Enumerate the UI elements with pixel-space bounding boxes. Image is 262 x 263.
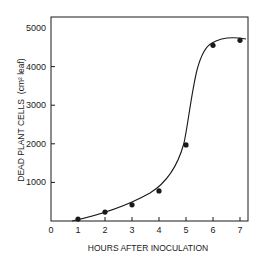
y-tick-label: 1000 — [26, 177, 46, 187]
x-axis-title: HOURS AFTER INOCULATION — [88, 243, 208, 253]
y-axis-title: DEAD PLANT CELLS(cm² leaf) — [16, 58, 26, 182]
x-tick-label: 7 — [237, 225, 242, 235]
data-point — [129, 202, 134, 207]
data-point — [183, 142, 188, 147]
y-tick-label: 3000 — [26, 100, 46, 110]
data-point — [75, 216, 80, 221]
x-tick-label: 4 — [156, 225, 161, 235]
plot-frame — [51, 17, 248, 221]
x-tick-label: 2 — [102, 225, 107, 235]
data-point — [210, 43, 215, 48]
data-point — [102, 210, 107, 215]
data-point — [156, 188, 161, 193]
x-tick-label: 6 — [210, 225, 215, 235]
x-tick-label: 5 — [183, 225, 188, 235]
y-tick-label: 4000 — [26, 62, 46, 72]
x-tick-label: 1 — [75, 225, 80, 235]
data-points — [75, 38, 242, 222]
x-tick-label: 0 — [48, 225, 53, 235]
x-tick-label: 3 — [129, 225, 134, 235]
y-tick-label: 2000 — [26, 139, 46, 149]
chart: 01234567 10002000300040005000 HOURS AFTE… — [0, 0, 262, 263]
data-point — [237, 38, 242, 43]
y-tick-label: 5000 — [26, 23, 46, 33]
fit-curve — [72, 38, 246, 221]
